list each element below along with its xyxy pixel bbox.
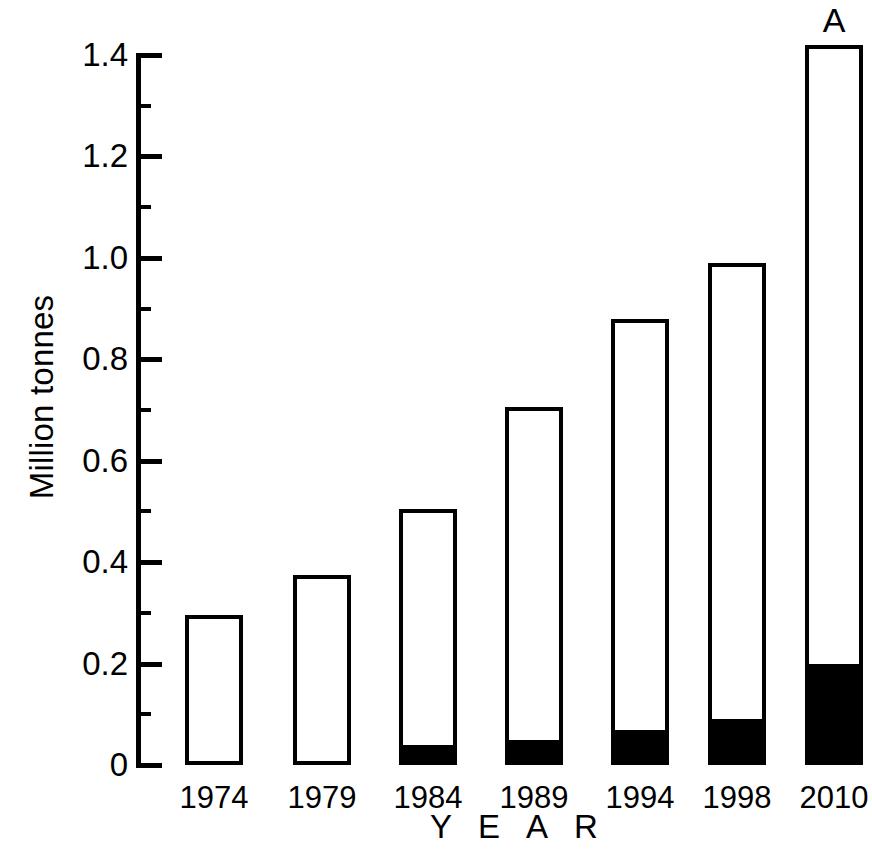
y-tick-label: 1.4	[36, 38, 128, 71]
bar-filled-segment[interactable]	[509, 740, 559, 761]
y-tick-label: 0.2	[36, 647, 128, 680]
y-tick-label: 1.2	[36, 139, 128, 172]
x-axis-title: YEAR	[430, 808, 730, 846]
bar[interactable]	[293, 575, 351, 765]
bar[interactable]	[708, 263, 766, 765]
y-tick-minor	[136, 104, 151, 108]
y-tick-minor	[136, 307, 151, 311]
bar-filled-segment[interactable]	[809, 664, 859, 761]
y-tick-major	[136, 357, 162, 362]
y-tick-label: 0.6	[36, 444, 128, 477]
y-tick-label: 0.8	[36, 342, 128, 375]
bar[interactable]	[805, 45, 863, 765]
bar[interactable]	[185, 615, 243, 765]
bar-filled-segment[interactable]	[615, 730, 665, 761]
y-tick-minor	[136, 712, 151, 716]
y-tick-major	[136, 662, 162, 667]
plot-area: 00.20.40.60.81.01.21.4 19741979198419891…	[0, 0, 872, 857]
y-tick-major	[136, 154, 162, 159]
bar[interactable]	[611, 319, 669, 765]
y-tick-major	[136, 256, 162, 261]
y-tick-major	[136, 53, 162, 58]
y-tick-label: 1.0	[36, 241, 128, 274]
y-tick-minor	[136, 205, 151, 209]
x-tick-label: 2010	[774, 782, 872, 813]
bar[interactable]	[505, 407, 563, 765]
y-tick-minor	[136, 611, 151, 615]
y-tick-minor	[136, 408, 151, 412]
y-tick-label: 0.4	[36, 545, 128, 578]
annotation-a-label: A	[784, 3, 872, 37]
x-tick-label: 1979	[262, 782, 382, 813]
y-tick-major	[136, 459, 162, 464]
y-tick-label: 0	[36, 748, 128, 781]
y-tick-major	[136, 763, 162, 768]
bar-chart-figure: Million tonnes 00.20.40.60.81.01.21.4 19…	[0, 0, 872, 857]
bar[interactable]	[399, 509, 457, 765]
bar-filled-segment[interactable]	[403, 745, 453, 761]
bar-filled-segment[interactable]	[712, 719, 762, 761]
y-tick-minor	[136, 509, 151, 513]
y-tick-major	[136, 560, 162, 565]
x-tick-label: 1974	[154, 782, 274, 813]
